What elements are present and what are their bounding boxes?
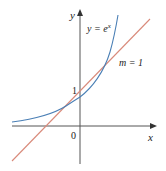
y-axis-arrow-icon <box>77 9 83 16</box>
origin-label: 0 <box>71 130 76 141</box>
tangent-line <box>12 19 150 161</box>
y-axis-label: y <box>69 9 75 21</box>
x-axis-label: x <box>147 131 153 143</box>
tangent-line-label: m = 1 <box>119 57 143 68</box>
y-tick-label: 1 <box>72 85 77 96</box>
exp-curve-label: y = ex <box>86 22 112 34</box>
x-axis-arrow-icon <box>150 123 157 129</box>
chart: y x 0 1 y = ex m = 1 <box>0 0 166 171</box>
